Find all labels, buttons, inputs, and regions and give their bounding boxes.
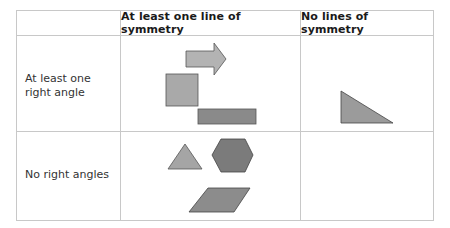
rectangle-shape bbox=[198, 109, 256, 124]
hexagon-shape bbox=[212, 139, 253, 172]
arrow-shape bbox=[186, 43, 226, 75]
square-shape bbox=[166, 74, 198, 106]
equilateral-triangle-shape bbox=[168, 144, 202, 169]
right-triangle-shape bbox=[341, 91, 393, 123]
parallelogram-shape bbox=[189, 188, 250, 212]
shapes-layer bbox=[0, 0, 450, 228]
